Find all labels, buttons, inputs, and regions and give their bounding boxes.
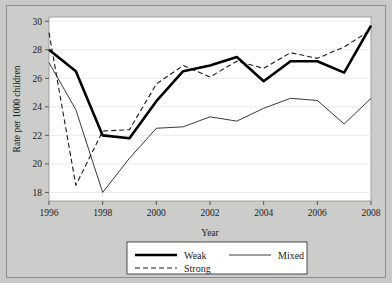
y-tick-label: 22 <box>33 131 43 141</box>
x-tick-label: 1996 <box>40 208 59 218</box>
plot-area-background <box>49 17 371 201</box>
y-axis-title: Rate per 1000 children <box>12 65 22 152</box>
figure-inner-frame: 18202224262830 1996199820002002200420062… <box>6 5 386 278</box>
legend-label-mixed: Mixed <box>278 250 304 261</box>
y-tick-label: 30 <box>33 17 43 27</box>
y-tick-label: 26 <box>33 74 43 84</box>
x-tick-label: 2002 <box>201 208 220 218</box>
figure-container: 18202224262830 1996199820002002200420062… <box>0 0 392 283</box>
y-tick-label: 24 <box>33 102 43 112</box>
x-tick-label: 2006 <box>308 208 327 218</box>
x-tick-label: 2008 <box>362 208 381 218</box>
line-chart: 18202224262830 1996199820002002200420062… <box>7 6 385 277</box>
x-tick-label: 2000 <box>147 208 166 218</box>
y-tick-label: 20 <box>33 159 43 169</box>
legend-label-strong: Strong <box>184 263 211 274</box>
y-axis-ticks: 18202224262830 <box>33 17 50 198</box>
legend: WeakMixedStrong <box>127 242 307 274</box>
x-tick-label: 2004 <box>254 208 273 218</box>
y-tick-label: 18 <box>33 188 43 198</box>
x-tick-label: 1998 <box>93 208 112 218</box>
x-axis-title: Year <box>201 228 219 238</box>
y-tick-label: 28 <box>33 45 43 55</box>
x-axis-ticks: 1996199820002002200420062008 <box>40 201 381 218</box>
legend-label-weak: Weak <box>184 250 207 261</box>
